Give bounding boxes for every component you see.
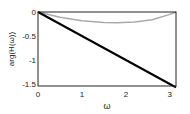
x-tick-label: 1	[80, 90, 85, 99]
x-tick-label: 0	[36, 90, 41, 99]
y-axis-label: arg(H(ω))	[7, 32, 16, 67]
y-tick-label: -0.5	[22, 32, 36, 41]
chart: 01230-0.5-1-1.5 ω arg(H(ω))	[0, 0, 190, 114]
y-tick-label: -1.5	[22, 80, 36, 89]
y-tick-label: 0	[32, 8, 37, 17]
y-tick-label: -1	[29, 56, 37, 65]
x-tick-label: 3	[168, 90, 173, 99]
series-line	[38, 12, 176, 23]
x-tick-label: 2	[124, 90, 129, 99]
plot-area	[38, 12, 176, 87]
x-axis-label: ω	[103, 101, 110, 111]
